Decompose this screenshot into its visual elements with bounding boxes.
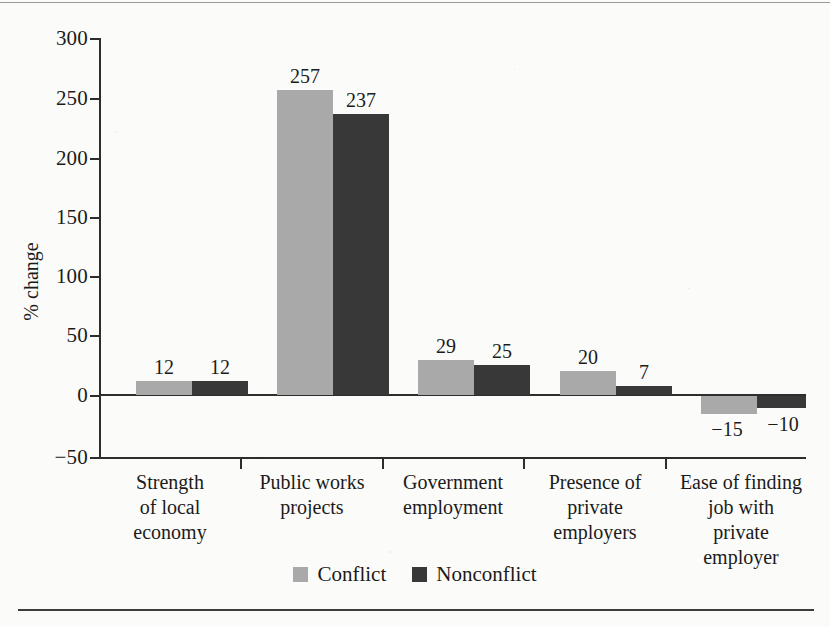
category-line: Government <box>383 470 523 495</box>
bar-nonconflict-public-works-projects[interactable] <box>333 114 389 395</box>
x-axis-separator-2 <box>382 457 384 469</box>
value-label-conflict-public-works-projects: 257 <box>277 66 333 86</box>
bar-chart-plot: 300 250 200 150 100 50 0 −50 % change 12… <box>0 0 830 627</box>
category-label-ease-of-finding-job: Ease of finding job with private employe… <box>666 470 816 570</box>
category-line: private <box>666 520 816 545</box>
y-tick-label-300: 300 <box>18 28 88 49</box>
bottom-divider-rule <box>18 609 814 611</box>
y-tick-label-200: 200 <box>18 148 88 169</box>
y-tick-250 <box>90 98 100 100</box>
value-label-nonconflict-presence-of-private-employers: 7 <box>616 362 672 382</box>
value-label-conflict-ease-of-finding-job: −15 <box>699 419 755 439</box>
value-label-nonconflict-public-works-projects: 237 <box>333 90 389 110</box>
category-label-presence-of-private-employers: Presence of private employers <box>525 470 665 545</box>
bar-nonconflict-presence-of-private-employers[interactable] <box>616 386 672 395</box>
y-tick-label-neg50: −50 <box>18 447 88 468</box>
value-label-nonconflict-ease-of-finding-job: −10 <box>755 414 811 434</box>
category-label-public-works-projects: Public works projects <box>242 470 382 520</box>
y-axis-title: % change <box>20 217 43 347</box>
bar-conflict-ease-of-finding-job[interactable] <box>701 396 757 414</box>
category-line: of local <box>101 495 239 520</box>
y-tick-100 <box>90 276 100 278</box>
x-axis-line <box>99 457 806 459</box>
bar-conflict-government-employment[interactable] <box>418 360 474 395</box>
value-label-conflict-government-employment: 29 <box>418 336 474 356</box>
bar-nonconflict-strength-of-local-economy[interactable] <box>192 381 248 395</box>
bar-conflict-public-works-projects[interactable] <box>277 90 333 395</box>
category-line: economy <box>101 520 239 545</box>
category-label-government-employment: Government employment <box>383 470 523 520</box>
legend-label-conflict: Conflict <box>317 562 386 587</box>
category-line: job with <box>666 495 816 520</box>
y-tick-label-0: 0 <box>18 385 88 406</box>
category-line: employment <box>383 495 523 520</box>
category-line: Ease of finding <box>666 470 816 495</box>
category-line: employers <box>525 520 665 545</box>
y-tick-300 <box>90 38 100 40</box>
category-line: projects <box>242 495 382 520</box>
category-label-strength-of-local-economy: Strength of local economy <box>101 470 239 545</box>
category-line: private <box>525 495 665 520</box>
figure: 300 250 200 150 100 50 0 −50 % change 12… <box>0 0 830 627</box>
bar-nonconflict-ease-of-finding-job[interactable] <box>757 396 806 408</box>
y-tick-50 <box>90 335 100 337</box>
y-tick-label-250: 250 <box>18 88 88 109</box>
y-tick-150 <box>90 217 100 219</box>
category-line: Presence of <box>525 470 665 495</box>
y-tick-neg50 <box>90 457 100 459</box>
value-label-nonconflict-government-employment: 25 <box>474 341 530 361</box>
value-label-conflict-strength-of-local-economy: 12 <box>136 357 192 377</box>
bar-conflict-strength-of-local-economy[interactable] <box>136 381 192 395</box>
x-axis-separator-3 <box>523 457 525 469</box>
x-axis-separator-1 <box>240 457 242 469</box>
value-label-conflict-presence-of-private-employers: 20 <box>560 347 616 367</box>
chart-legend: Conflict Nonconflict <box>0 562 830 587</box>
bar-nonconflict-government-employment[interactable] <box>474 365 530 395</box>
y-tick-0 <box>90 395 100 397</box>
x-axis-separator-4 <box>665 457 667 469</box>
category-line: Public works <box>242 470 382 495</box>
y-tick-200 <box>90 158 100 160</box>
value-label-nonconflict-strength-of-local-economy: 12 <box>192 357 248 377</box>
legend-item-conflict[interactable]: Conflict <box>293 562 386 587</box>
category-line: Strength <box>101 470 239 495</box>
legend-swatch-conflict-icon <box>293 567 308 582</box>
bar-conflict-presence-of-private-employers[interactable] <box>560 371 616 395</box>
legend-item-nonconflict[interactable]: Nonconflict <box>412 562 536 587</box>
legend-label-nonconflict: Nonconflict <box>436 562 536 587</box>
legend-swatch-nonconflict-icon <box>412 567 427 582</box>
